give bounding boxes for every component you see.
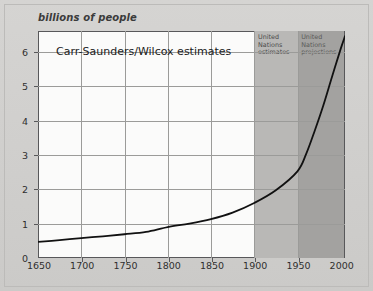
y-tick-label-4: 4	[6, 115, 28, 126]
x-tick-mark-1700	[82, 258, 83, 262]
plot-area: United Nations estimates United Nations …	[38, 31, 345, 258]
y-axis-title: billions of people	[38, 12, 137, 23]
population-curve	[38, 31, 345, 258]
x-tick-mark-1850	[212, 258, 213, 262]
y-tick-label-2: 2	[6, 184, 28, 195]
y-tick-label-1: 1	[6, 218, 28, 229]
y-tick-label-3: 3	[6, 149, 28, 160]
x-tick-mark-1900	[255, 258, 256, 262]
figure-container: billions of people 0 1 2 3 4 5 6 1650 17…	[0, 0, 373, 291]
x-tick-mark-1750	[126, 258, 127, 262]
x-tick-label-2000: 2000	[322, 260, 362, 271]
population-curve-path	[38, 36, 345, 242]
y-tick-label-5: 5	[6, 81, 28, 92]
y-tick-label-6: 6	[6, 46, 28, 57]
x-tick-label-1650: 1650	[19, 260, 59, 271]
x-tick-mark-1950	[299, 258, 300, 262]
x-tick-mark-1800	[169, 258, 170, 262]
